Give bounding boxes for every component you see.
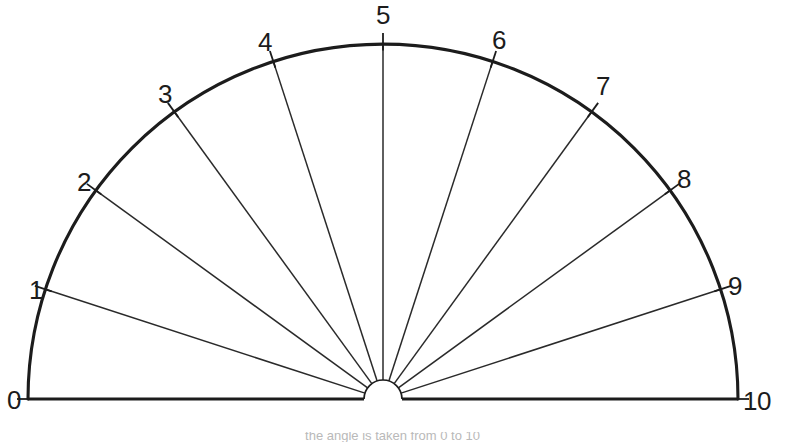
semicircle-diagram-canvas: 012345678910 (0, 0, 785, 442)
scale-label-2: 2 (77, 167, 91, 197)
center-hub-semicircle (364, 380, 402, 399)
radial-line-7 (394, 112, 591, 384)
radial-line-1 (45, 289, 365, 393)
radial-line-6 (389, 61, 493, 381)
radial-line-3 (174, 112, 371, 384)
radial-line-9 (401, 289, 721, 393)
radial-line-8 (398, 190, 670, 387)
radial-line-2 (96, 190, 368, 387)
scale-labels-group: 012345678910 (7, 0, 771, 416)
scale-label-6: 6 (492, 25, 506, 55)
scale-label-4: 4 (258, 27, 272, 57)
radial-line-4 (273, 61, 377, 381)
scale-label-3: 3 (158, 79, 172, 109)
scale-label-7: 7 (596, 71, 610, 101)
scale-label-0: 0 (7, 385, 21, 415)
radial-lines-group (45, 44, 720, 393)
figure-caption: the angle is taken from 0 to 10 (0, 432, 785, 442)
scale-label-1: 1 (29, 275, 43, 305)
scale-label-8: 8 (677, 164, 691, 194)
caption-strip: the angle is taken from 0 to 10 (0, 432, 785, 442)
scale-label-10: 10 (743, 386, 771, 416)
scale-label-9: 9 (728, 271, 742, 301)
semicircle-figure: 012345678910 the angle is taken from 0 t… (0, 0, 785, 442)
scale-label-5: 5 (376, 0, 390, 30)
